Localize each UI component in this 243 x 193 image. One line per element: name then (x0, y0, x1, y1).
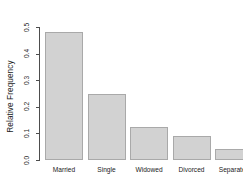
y-axis-tick-label-text: 0.1 (23, 129, 30, 138)
y-axis-tick-label: 0.2 (19, 102, 35, 112)
y-axis-tick-label: 0.4 (19, 49, 35, 59)
bar-chart-figure: Relative Frequency 0.00.10.20.30.40.5 Ma… (0, 0, 243, 193)
y-axis-tick-label-text: 0.3 (23, 76, 30, 85)
bar (173, 136, 211, 160)
y-axis-tick-label: 0.5 (19, 22, 35, 32)
y-axis-label: Relative Frequency (0, 0, 20, 193)
y-axis-label-text: Relative Frequency (6, 60, 15, 132)
y-axis-tick-label-text: 0.4 (23, 49, 30, 58)
y-axis-tick-label-text: 0.2 (23, 102, 30, 111)
bar (45, 32, 83, 160)
y-axis-tick (36, 27, 39, 28)
bar (130, 127, 168, 160)
y-axis-tick (36, 160, 39, 161)
y-axis-tick (36, 133, 39, 134)
y-axis-tick-label-text: 0.0 (23, 155, 30, 164)
y-axis-tick-label: 0.3 (19, 75, 35, 85)
y-axis-tick (36, 80, 39, 81)
y-axis-tick (36, 107, 39, 108)
y-axis-tick-label-text: 0.5 (23, 22, 30, 31)
y-axis-tick (36, 54, 39, 55)
y-axis-line (39, 27, 40, 161)
bar (88, 94, 126, 161)
y-axis-tick-label: 0.1 (19, 128, 35, 138)
x-axis-tick-label: Separated (209, 166, 243, 173)
y-axis-tick-label: 0.0 (19, 155, 35, 165)
bar (215, 149, 243, 160)
